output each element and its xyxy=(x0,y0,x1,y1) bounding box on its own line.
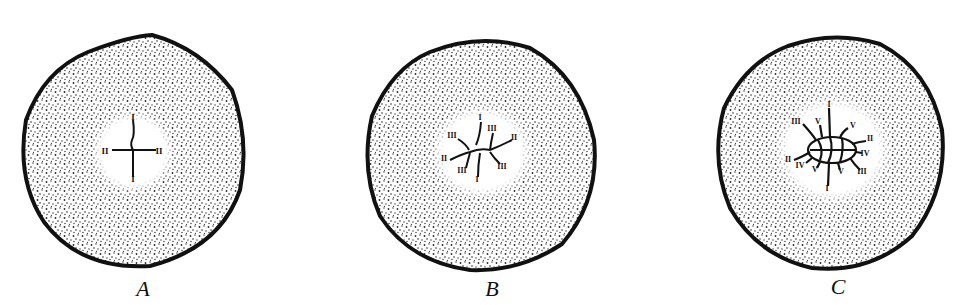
pole-label: II xyxy=(155,146,163,156)
pole-label: V xyxy=(812,165,818,174)
panel-b: IIIIIIIIIIIIIIIIII xyxy=(368,41,595,270)
pole-label: I xyxy=(478,113,481,122)
pole-label: II xyxy=(101,146,109,156)
panel-label-b: B xyxy=(485,276,498,302)
pole-label: III xyxy=(457,166,466,175)
pole-label: I xyxy=(475,175,478,184)
pole-label: I xyxy=(825,184,828,193)
pole-label: II xyxy=(511,133,517,142)
pole-label: IV xyxy=(796,161,805,170)
root-cross-section-figure: IIIIII IIIIIIIIIIIIIIIIII xyxy=(0,0,969,305)
pole-label: I xyxy=(827,100,830,109)
pole-label: V xyxy=(838,167,844,176)
pole-label: III xyxy=(487,124,496,133)
pole-label: II xyxy=(785,155,791,164)
stele-region xyxy=(430,104,534,200)
pole-label: III xyxy=(791,117,800,126)
pole-label: III xyxy=(447,131,456,140)
panel-a: IIIIII xyxy=(23,35,243,266)
panel-label-a: A xyxy=(136,276,149,302)
pole-label: II xyxy=(867,134,873,143)
pole-label: V xyxy=(850,121,856,130)
pole-label: III xyxy=(497,162,506,171)
pole-label: IV xyxy=(861,149,870,158)
pole-label: I xyxy=(131,174,135,184)
panel-label-c: C xyxy=(831,274,846,300)
pole-label: III xyxy=(857,167,866,176)
diagram-canvas: IIIIII IIIIIIIIIIIIIIIIII xyxy=(0,0,969,305)
pole-label: V xyxy=(815,117,821,126)
pole-label: II xyxy=(441,154,447,163)
pole-label: I xyxy=(131,112,135,122)
panel-c: IIIIVVIIIVIIIVVVIIII xyxy=(718,37,943,268)
